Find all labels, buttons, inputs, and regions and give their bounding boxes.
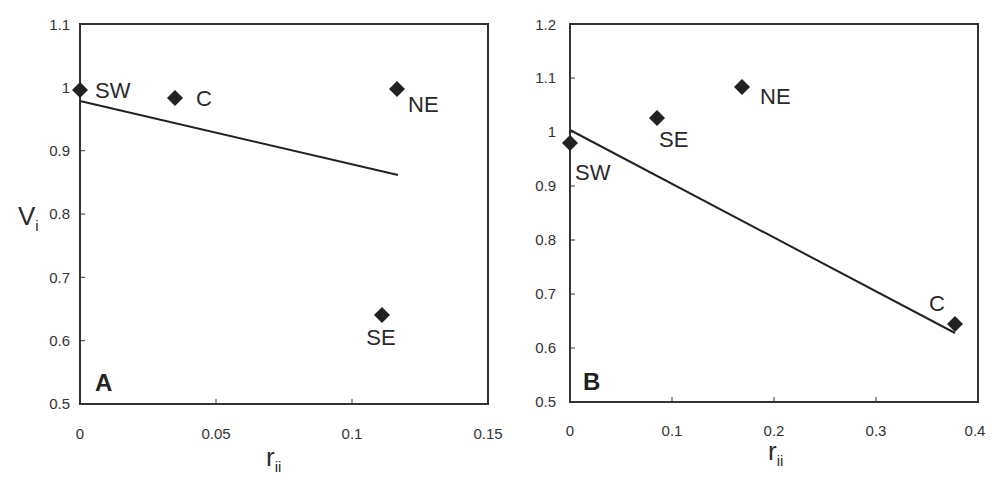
point-label: C (196, 86, 212, 111)
y-tick-label: 0.5 (535, 393, 556, 410)
x-tick-label: 0.15 (473, 425, 502, 442)
point-label: SW (575, 160, 611, 185)
y-tick-label: 0.6 (535, 339, 556, 356)
y-tick-label: 0.5 (49, 395, 70, 412)
data-points-b: SW SE NE C (562, 79, 963, 332)
y-tick-label: 0.9 (535, 177, 556, 194)
y-tick-label: 1.2 (535, 16, 556, 33)
x-tick-label: 0.3 (866, 422, 887, 439)
y-tick-label: 1 (548, 123, 556, 140)
point-label: SE (366, 325, 395, 350)
diamond-marker (167, 90, 183, 106)
point-label: SE (659, 127, 688, 152)
chart-panel-b: 0.5 0.6 0.7 0.8 0.9 1 1.1 1.2 0 0.1 0.2 … (535, 16, 985, 469)
point-label: NE (408, 92, 439, 117)
diamond-marker (389, 81, 405, 97)
y-tick-label: 0.9 (49, 142, 70, 159)
x-tick-label: 0 (566, 422, 574, 439)
panel-label-a: A (95, 369, 112, 396)
x-tick-label: 0.1 (662, 422, 683, 439)
trendline-a (80, 101, 398, 175)
trendline-b (570, 130, 955, 333)
point-label: SW (95, 78, 131, 103)
y-tick-label: 0.8 (535, 231, 556, 248)
data-points-a: SW C NE SE (72, 78, 439, 350)
x-ticks-b: 0 0.1 0.2 0.3 0.4 (566, 397, 986, 439)
x-tick-label: 0 (76, 425, 84, 442)
x-axis-label-b: rii (768, 436, 783, 469)
y-tick-label: 0.6 (49, 332, 70, 349)
plot-frame-b (570, 24, 978, 402)
diamond-marker (72, 82, 88, 98)
y-tick-label: 0.8 (49, 205, 70, 222)
y-axis-label-a: Vi (18, 201, 39, 234)
y-tick-label: 0.7 (535, 285, 556, 302)
x-ticks-a: 0 0.05 0.1 0.15 (76, 399, 503, 442)
panel-label-b: B (583, 368, 600, 395)
y-tick-label: 1.1 (535, 69, 556, 86)
diamond-marker (734, 79, 750, 95)
figure: 0.5 0.6 0.7 0.8 0.9 1 1.1 0 0.05 0.1 0.1… (0, 0, 1000, 481)
diamond-marker (374, 307, 390, 323)
x-tick-label: 0.05 (201, 425, 230, 442)
diamond-marker (649, 110, 665, 126)
diamond-marker (562, 135, 578, 151)
y-tick-label: 0.7 (49, 269, 70, 286)
chart-panel-a: 0.5 0.6 0.7 0.8 0.9 1 1.1 0 0.05 0.1 0.1… (18, 16, 503, 475)
plot-frame-a (80, 24, 488, 404)
y-tick-label: 1 (62, 79, 70, 96)
x-axis-label-a: rii (266, 442, 281, 475)
point-label: NE (760, 84, 791, 109)
x-tick-label: 0.4 (965, 422, 986, 439)
x-tick-label: 0.1 (342, 425, 363, 442)
point-label: C (929, 291, 945, 316)
y-tick-label: 1.1 (49, 16, 70, 33)
